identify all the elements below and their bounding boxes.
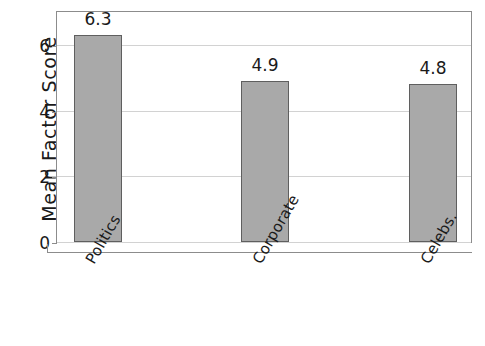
y-tick-label-2: 2 <box>39 167 50 187</box>
y-tick-label-4: 4 <box>39 102 50 122</box>
bar-chart-figure: Mean Factor Score 0 2 4 6 6.3 4.9 4.8 Po… <box>0 0 485 346</box>
y-tick-mark-0 <box>52 243 57 244</box>
bar-value-corporate: 4.9 <box>251 55 278 75</box>
y-tick-mark-4 <box>52 112 57 113</box>
y-tick-mark-2 <box>52 177 57 178</box>
y-tick-label-6: 6 <box>39 36 50 56</box>
bar-value-politics: 6.3 <box>84 9 111 29</box>
y-tick-mark-6 <box>52 46 57 47</box>
bar-politics <box>74 35 122 242</box>
bar-value-celebs: 4.8 <box>419 58 446 78</box>
plot-area: 0 2 4 6 6.3 4.9 4.8 <box>56 11 472 243</box>
outer-axis-left-tick <box>47 244 48 253</box>
y-tick-label-0: 0 <box>39 233 50 253</box>
